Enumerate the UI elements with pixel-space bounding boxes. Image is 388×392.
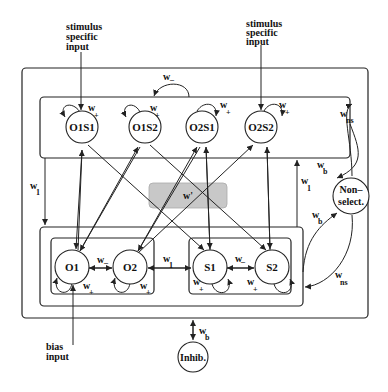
svg-text:O2: O2 bbox=[123, 261, 138, 273]
svg-text:1: 1 bbox=[36, 188, 40, 197]
svg-text:b: b bbox=[323, 167, 328, 176]
svg-text:+: + bbox=[285, 108, 290, 117]
node-o2: O2 bbox=[113, 250, 147, 284]
node-nonselect: Non– select. bbox=[333, 178, 369, 214]
bias-label: bias input bbox=[46, 341, 69, 362]
wns-nonselect-to-bottom bbox=[305, 215, 352, 287]
node-o1: O1 bbox=[55, 250, 89, 284]
svg-text:O2S1: O2S1 bbox=[189, 121, 215, 133]
node-s2: S2 bbox=[255, 250, 289, 284]
node-o2s2: O2S2 bbox=[245, 111, 277, 143]
svg-text:+: + bbox=[146, 288, 151, 297]
svg-text:+: + bbox=[89, 288, 94, 297]
svg-text:+: + bbox=[155, 111, 160, 120]
edge-o2s2-s2 bbox=[267, 147, 270, 249]
svg-text:–: – bbox=[169, 75, 175, 84]
w-prime-label: w' bbox=[183, 190, 193, 201]
w-minus-top-arc bbox=[154, 84, 189, 97]
svg-text:ns: ns bbox=[346, 116, 354, 125]
svg-text:–: – bbox=[103, 258, 109, 267]
stimulus-label-right: stimulus specific input bbox=[246, 18, 282, 47]
svg-text:O2S2: O2S2 bbox=[248, 121, 274, 133]
svg-text:O1S2: O1S2 bbox=[132, 121, 158, 133]
svg-text:1: 1 bbox=[307, 184, 311, 193]
svg-text:S2: S2 bbox=[266, 261, 278, 273]
svg-text:input: input bbox=[46, 351, 69, 362]
svg-text:ns: ns bbox=[340, 278, 348, 287]
node-inhib: Inhib. bbox=[178, 342, 208, 372]
svg-text:Inhib.: Inhib. bbox=[180, 352, 206, 363]
svg-text:O1: O1 bbox=[65, 261, 79, 273]
svg-text:+: + bbox=[94, 111, 99, 120]
edge-o1s2-o1 bbox=[80, 147, 140, 251]
svg-text:+: + bbox=[253, 285, 258, 294]
wns-nonselect-to-top bbox=[347, 104, 352, 176]
stimulus-label-left: stimulus specific input bbox=[66, 21, 102, 52]
svg-text:S1: S1 bbox=[204, 261, 216, 273]
svg-text:–: – bbox=[240, 257, 246, 266]
svg-text:b: b bbox=[205, 333, 210, 342]
node-o2s1: O2S1 bbox=[186, 111, 218, 143]
svg-text:Non–: Non– bbox=[340, 184, 364, 195]
svg-text:1: 1 bbox=[169, 261, 173, 270]
svg-text:O1S1: O1S1 bbox=[69, 121, 95, 133]
svg-text:input: input bbox=[66, 41, 89, 52]
svg-text:b: b bbox=[318, 217, 323, 226]
svg-text:select.: select. bbox=[338, 196, 364, 207]
svg-text:input: input bbox=[246, 36, 269, 47]
svg-text:+: + bbox=[199, 285, 204, 294]
svg-text:+: + bbox=[226, 108, 231, 117]
network-diagram: O1S1 O1S2 O2S1 O2S2 O1 O2 S1 S2 Non– sel… bbox=[0, 0, 388, 392]
